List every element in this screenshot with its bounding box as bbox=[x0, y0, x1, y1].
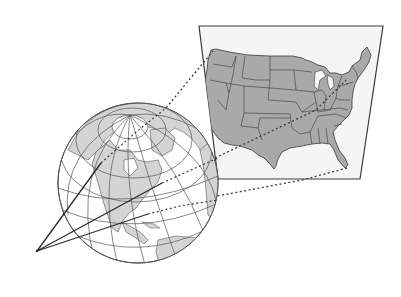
projection-diagram bbox=[0, 0, 401, 297]
viewpoint-marker bbox=[36, 250, 38, 252]
map-panel bbox=[199, 26, 383, 179]
globe bbox=[58, 98, 222, 290]
